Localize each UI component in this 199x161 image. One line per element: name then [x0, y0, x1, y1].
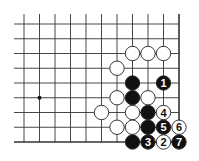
white-stone	[125, 105, 139, 119]
white-stone	[110, 61, 124, 75]
black-stone: 7	[172, 135, 186, 149]
move-number-label: 4	[160, 107, 167, 119]
white-stone	[141, 46, 155, 60]
black-stone	[141, 120, 155, 134]
white-stone: 4	[156, 105, 170, 119]
hoshi-points	[38, 96, 42, 100]
white-stone	[125, 46, 139, 60]
black-stone: 1	[156, 76, 170, 90]
white-stone	[141, 91, 155, 105]
hoshi-point	[38, 96, 42, 100]
white-stone	[110, 120, 124, 134]
white-stone	[125, 120, 139, 134]
move-number-label: 6	[176, 121, 182, 133]
black-stone	[125, 76, 139, 90]
black-stone: 5	[156, 120, 170, 134]
white-stone: 2	[156, 135, 170, 149]
move-number-label: 5	[160, 121, 166, 133]
black-stone: 3	[141, 135, 155, 149]
go-board: 1456327	[0, 0, 199, 161]
white-stone	[94, 105, 108, 119]
move-number-label: 7	[176, 136, 182, 148]
black-stone	[125, 91, 139, 105]
grid-lines	[14, 14, 179, 142]
white-stone: 6	[172, 120, 186, 134]
black-stone	[125, 135, 139, 149]
white-stone	[110, 91, 124, 105]
black-stone	[141, 105, 155, 119]
move-number-label: 1	[160, 77, 166, 89]
move-number-label: 2	[160, 136, 166, 148]
move-number-label: 3	[145, 136, 151, 148]
white-stone	[156, 46, 170, 60]
